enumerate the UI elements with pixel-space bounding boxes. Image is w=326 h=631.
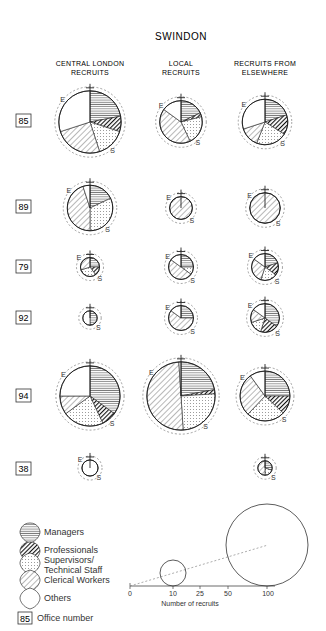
diagram-title: SWINDON — [155, 31, 207, 42]
others-swatch-icon — [20, 588, 40, 609]
office-box-79: 79 — [16, 260, 31, 273]
east-marker: E — [149, 369, 154, 376]
svg-text:89: 89 — [18, 202, 28, 212]
legend: Managers Professionals Supervisors/ Tech… — [18, 523, 110, 624]
legend-item-managers: Managers — [20, 523, 85, 543]
pie-office-38-elsewhere: S — [254, 454, 276, 481]
legend-item-others: Others — [20, 588, 72, 609]
pie-charts: SESESESESESESESESESSESESESESESES — [55, 84, 294, 482]
column-header-local-line1: LOCAL — [169, 60, 193, 67]
pie-office-89-elsewhere: SE — [246, 186, 285, 228]
pie-office-85-local: SE — [156, 94, 207, 148]
column-header-local-line2: RECRUITS — [162, 69, 200, 76]
scale-circle-100 — [226, 504, 308, 586]
pie-office-38-central: SE — [78, 453, 102, 481]
south-marker: S — [275, 330, 280, 337]
office-box-92: 92 — [16, 311, 31, 324]
svg-text:Others: Others — [44, 593, 72, 603]
pie-office-92-central: S — [79, 304, 101, 331]
east-marker: E — [249, 252, 254, 259]
east-marker: E — [159, 102, 164, 109]
tick-25: 25 — [196, 590, 204, 597]
pie-office-85-central: SE — [55, 84, 125, 157]
svg-text:Managers: Managers — [44, 527, 85, 537]
south-marker: S — [110, 147, 115, 154]
south-marker: S — [271, 474, 276, 481]
office-labels: 85 89 79 92 94 38 — [16, 114, 31, 475]
column-header-elsewhere-line2: ELSEWHERE — [242, 69, 289, 76]
pie-office-94-central: SE — [56, 359, 124, 430]
east-marker: E — [166, 194, 171, 201]
svg-text:Supervisors/: Supervisors/ — [44, 555, 95, 565]
south-marker: S — [190, 277, 195, 284]
south-marker: S — [96, 474, 101, 481]
south-marker: S — [203, 423, 208, 430]
east-marker: E — [77, 254, 82, 261]
south-marker: S — [276, 220, 281, 227]
tick-0: 0 — [128, 590, 132, 597]
svg-text:Office number: Office number — [37, 613, 93, 623]
south-marker: S — [195, 139, 200, 146]
svg-text:38: 38 — [18, 464, 28, 474]
office-box-85: 85 — [16, 114, 31, 127]
east-marker: E — [165, 304, 170, 311]
column-header-elsewhere-line1: RECRUITS FROM — [234, 60, 296, 67]
pie-office-79-local: SE — [165, 248, 198, 284]
south-marker: S — [280, 140, 285, 147]
east-marker: E — [78, 456, 83, 463]
south-marker: S — [189, 217, 194, 224]
swindon-diagram: SWINDON CENTRAL LONDON RECRUITS LOCAL RE… — [0, 0, 326, 631]
east-marker: E — [247, 192, 252, 199]
pie-office-92-local: SE — [165, 299, 198, 335]
pie-office-85-elsewhere: SE — [238, 92, 292, 149]
scale-axis-label: Number of recruits — [161, 600, 219, 607]
pie-office-94-elsewhere: SE — [236, 364, 294, 425]
south-marker: S — [275, 278, 280, 285]
scale-guide-line — [130, 545, 268, 586]
east-marker: E — [67, 187, 72, 194]
east-marker: E — [61, 371, 66, 378]
east-marker: E — [242, 101, 247, 108]
column-header-central-line2: RECRUITS — [71, 69, 109, 76]
pie-office-89-central: SE — [63, 178, 117, 235]
svg-text:92: 92 — [18, 313, 28, 323]
pie-office-79-central: SE — [76, 250, 103, 281]
svg-text:Clerical Workers: Clerical Workers — [44, 575, 110, 585]
legend-office-number: 85 Office number — [18, 612, 93, 624]
tick-50: 50 — [224, 590, 232, 597]
south-marker: S — [190, 328, 195, 335]
svg-text:Technical Staff: Technical Staff — [44, 565, 103, 575]
column-headers: CENTRAL LONDON RECRUITS LOCAL RECRUITS R… — [56, 60, 296, 76]
south-marker: S — [105, 226, 110, 233]
tick-100: 100 — [262, 590, 274, 597]
pie-office-79-elsewhere: SE — [248, 247, 283, 285]
svg-text:94: 94 — [18, 391, 28, 401]
svg-text:85: 85 — [20, 614, 30, 624]
south-marker: S — [110, 420, 115, 427]
south-marker: S — [97, 275, 102, 282]
column-header-central-line1: CENTRAL LONDON — [56, 60, 125, 67]
office-box-89: 89 — [16, 200, 31, 213]
east-marker: E — [240, 374, 245, 381]
office-box-38: 38 — [16, 462, 31, 475]
pie-office-92-elsewhere: SE — [247, 297, 284, 337]
managers-swatch-icon — [20, 523, 40, 543]
size-scale: 0 10 25 50 100 Number of recruits — [128, 504, 308, 607]
office-box-94: 94 — [16, 389, 31, 402]
east-marker: E — [248, 302, 253, 309]
pie-office-94-local: SE — [143, 355, 219, 434]
svg-text:79: 79 — [18, 262, 28, 272]
pie-office-89-local: SE — [166, 190, 197, 224]
south-marker: S — [282, 416, 287, 423]
east-marker: E — [60, 96, 65, 103]
south-marker: S — [96, 324, 101, 331]
tick-10: 10 — [169, 590, 177, 597]
svg-text:Professionals: Professionals — [44, 545, 99, 555]
east-marker: E — [165, 253, 170, 260]
svg-text:85: 85 — [18, 116, 28, 126]
